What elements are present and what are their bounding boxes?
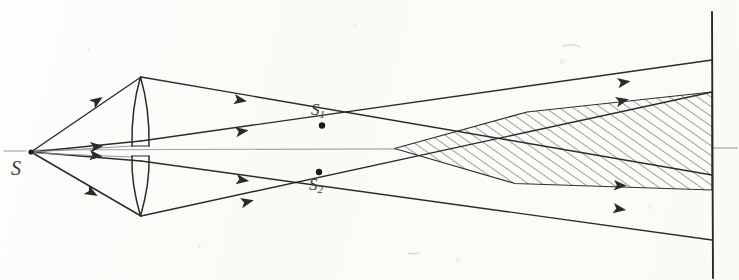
incident-ray-upper [31,77,141,152]
biconvex-split-lens [132,77,149,216]
incident-ray-lower [31,152,141,216]
label-image-point-2-main: S [309,175,318,194]
label-image-point-2-sub: 2 [318,183,324,195]
lens-lower-half [132,156,149,216]
source-point [28,149,33,154]
label-image-point-1: S1 [311,101,325,120]
incident-ray-bundle [31,77,141,216]
figure-canvas: S S1 S2 [0,0,739,280]
image-point-1-dot [319,122,325,128]
label-image-point-1-sub: 1 [320,108,326,120]
lens-upper-half [132,77,149,146]
observation-screen [712,12,713,278]
arrowhead-upper-outer-mid [233,94,248,106]
interference-overlap-region [395,92,713,190]
label-image-point-2: S2 [309,176,323,195]
arrowhead-lower-inner-right [613,203,627,215]
arrowhead-upper-inner-right [617,76,631,88]
ray-diagram-svg [0,0,739,280]
label-image-point-1-main: S [311,100,320,119]
label-source: S [11,158,21,178]
arrowhead-lower-outer-mid [240,195,255,208]
source-point-dot [28,149,33,154]
